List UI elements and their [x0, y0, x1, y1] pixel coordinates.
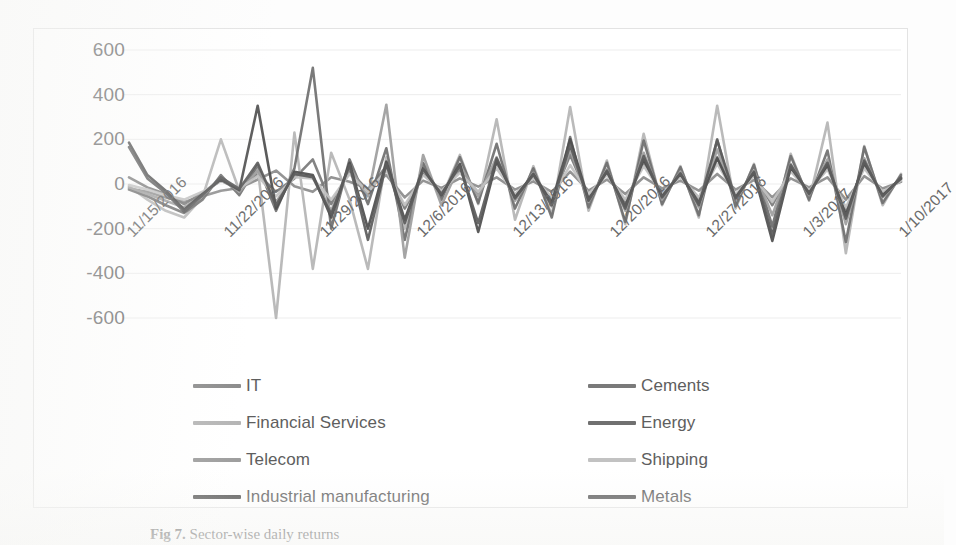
legend-item[interactable]: Financial Services [193, 413, 386, 433]
legend-label: Financial Services [246, 413, 386, 433]
figure-caption: Fig 7. Sector-wise daily returns [150, 526, 850, 545]
legend-item[interactable]: Industrial manufacturing [193, 487, 430, 507]
legend-item[interactable]: Telecom [193, 450, 310, 470]
y-axis-tick-label: -600 [63, 307, 125, 329]
chart-plot-area[interactable]: 6004002000-200-400-600 11/15/201611/22/2… [33, 28, 908, 508]
y-axis-tick-label: -200 [63, 218, 125, 240]
y-axis-tick-label: 200 [63, 128, 125, 150]
legend-item[interactable]: Metals [588, 487, 692, 507]
y-axis-tick-label: -400 [63, 262, 125, 284]
legend-color-swatch [193, 458, 241, 462]
series-lines[interactable] [129, 68, 901, 318]
legend-label: Industrial manufacturing [246, 487, 430, 507]
y-axis-tick-label: 400 [63, 84, 125, 106]
legend-color-swatch [588, 421, 636, 425]
legend-item[interactable]: Energy [588, 413, 695, 433]
legend-label: Energy [641, 413, 695, 433]
legend-color-swatch [193, 384, 241, 388]
legend-label: IT [246, 376, 261, 396]
legend-color-swatch [193, 421, 241, 425]
legend-item[interactable]: Cements [588, 376, 710, 396]
y-axis-tick-label: 0 [63, 173, 125, 195]
line-chart-canvas[interactable] [33, 28, 908, 508]
legend-item[interactable]: Shipping [588, 450, 708, 470]
legend-label: Telecom [246, 450, 310, 470]
figure-number: Fig 7. [150, 526, 186, 542]
legend-item[interactable]: IT [193, 376, 261, 396]
legend-color-swatch [588, 458, 636, 462]
legend-color-swatch [588, 495, 636, 499]
y-axis: 6004002000-200-400-600 [45, 28, 125, 508]
legend-color-swatch [193, 495, 241, 499]
y-axis-tick-label: 600 [63, 39, 125, 61]
legend-label: Metals [641, 487, 692, 507]
legend-label: Shipping [641, 450, 708, 470]
figure-caption-text: Sector-wise daily returns [190, 526, 340, 542]
legend-label: Cements [641, 376, 710, 396]
legend-color-swatch [588, 384, 636, 388]
